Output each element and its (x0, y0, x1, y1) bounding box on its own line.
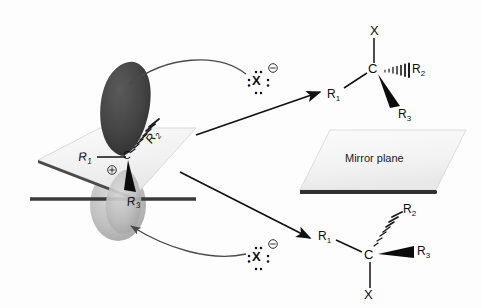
product-top-r2-label: R2 (412, 63, 425, 78)
product-bottom-r3-label: R3 (417, 245, 430, 260)
attack-arrow-bottom (131, 226, 246, 256)
product-top-r3-label: R3 (398, 108, 411, 123)
sn1-stereochemistry-diagram: C R1 R2 R3 X X Mirror plane X C R1 R2 R3… (0, 0, 481, 308)
carbocation-r3-label: R3 (126, 194, 141, 211)
product-bottom-bonds (336, 212, 414, 288)
mirror-plane-label: Mirror plane (345, 153, 404, 164)
product-top-center-label: C (368, 62, 377, 75)
product-top-x-label: X (370, 24, 379, 37)
carbocation-center-label: C (123, 150, 131, 161)
nucleophile-top-charge (269, 64, 278, 73)
nucleophile-top-symbol: X (252, 74, 261, 87)
product-arrow-bottom (180, 172, 310, 238)
product-arrow-top (196, 92, 320, 135)
product-bottom-r1-label: R1 (318, 230, 331, 245)
product-bottom-center-label: C (364, 248, 373, 261)
product-top-r1-label: R1 (327, 88, 340, 103)
carbocation-r1-label: R1 (78, 150, 92, 166)
nucleophile-bottom-charge (269, 240, 278, 249)
product-bottom-x-label: X (364, 288, 373, 301)
nucleophile-bottom-symbol: X (252, 250, 261, 263)
diagram-canvas (0, 0, 481, 308)
product-bottom-r2-label: R2 (403, 203, 416, 218)
